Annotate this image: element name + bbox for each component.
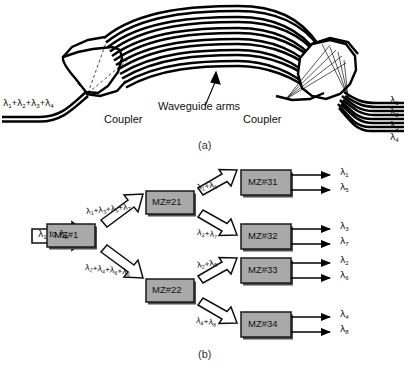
- output-label-mz33-1: λ2: [340, 256, 349, 266]
- output-label-mz34-2: λ8: [340, 325, 349, 335]
- mz22-label: MZ#22: [152, 285, 182, 295]
- panel-b-caption: (b): [198, 348, 211, 360]
- mz21-label: MZ#21: [152, 197, 182, 207]
- output-arrows: [291, 175, 330, 332]
- output-label-mz32-1: λ3: [340, 222, 349, 232]
- panel-a-output-label-2: λ2: [390, 108, 399, 118]
- panel-a-input-label: λ1+λ2+λ3+λ4: [3, 99, 54, 109]
- coupler-right-label: Coupler: [243, 114, 282, 125]
- mz31-label: MZ#31: [248, 177, 278, 187]
- mz33-label: MZ#33: [248, 265, 278, 275]
- output-label-mz33-2: λ6: [340, 271, 349, 281]
- panel-a-output-label-3: λ3: [390, 121, 399, 131]
- mz32-label: MZ#32: [248, 231, 278, 241]
- coupler-left-label: Coupler: [104, 114, 143, 125]
- output-label-mz32-2: λ7: [340, 237, 349, 247]
- figure-container: λ1+λ2+λ3+λ4 Waveguide arms Coupler Coupl…: [0, 0, 414, 368]
- output-label-mz31-2: λ5: [340, 183, 349, 193]
- mz34-label: MZ#34: [248, 319, 278, 329]
- panel-a-caption: (a): [198, 139, 211, 151]
- panel-a-output-label-1: λ1: [390, 96, 399, 106]
- output-label-mz31-1: λ1: [340, 168, 349, 178]
- output-label-mz34-1: λ4: [340, 310, 349, 320]
- panel-a-output-label-4: λ4: [390, 133, 399, 143]
- mz1-label: MZ#1: [54, 230, 78, 240]
- waveguide-arms-label: Waveguide arms: [158, 101, 240, 112]
